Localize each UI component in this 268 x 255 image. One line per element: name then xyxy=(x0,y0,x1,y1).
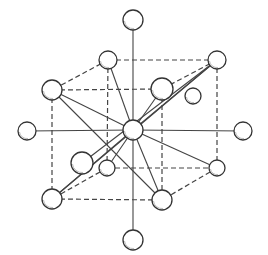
bond-line xyxy=(133,130,217,168)
atom-bottom xyxy=(123,230,143,250)
atom-back-right-mid xyxy=(185,88,201,104)
bond-line xyxy=(52,90,162,200)
atom-back-top-right xyxy=(208,51,226,69)
atom-front-top-right xyxy=(151,78,173,100)
crystal-lattice-diagram xyxy=(0,0,268,255)
atom-front-bottom-left xyxy=(42,189,62,209)
bond-line xyxy=(133,130,243,131)
cube-edge xyxy=(52,199,162,200)
atom-center xyxy=(123,120,143,140)
atom-front-bottom-right xyxy=(152,190,172,210)
atoms xyxy=(18,10,252,250)
atom-top xyxy=(123,10,143,30)
atom-back-top-left xyxy=(99,51,117,69)
bond-line xyxy=(82,60,217,163)
bond-line xyxy=(133,130,162,200)
atom-left xyxy=(18,122,36,140)
cube-edge xyxy=(52,89,162,90)
atom-back-bottom-right xyxy=(209,160,225,176)
atom-back-bottom-left xyxy=(99,160,115,176)
atom-right xyxy=(234,122,252,140)
atom-front-top-left xyxy=(42,80,62,100)
bond-line xyxy=(27,130,133,131)
atom-front-left-mid xyxy=(71,152,93,174)
